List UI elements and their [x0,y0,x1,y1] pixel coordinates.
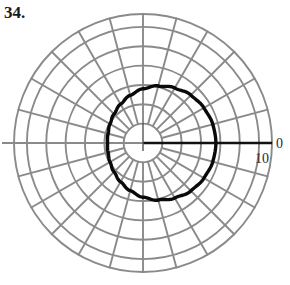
polar-axis-line [2,123,272,151]
radial-tick-label-ten: 10 [255,151,269,166]
axis-label-zero: 0 [276,136,283,151]
polar-graph-figure: 34. 0 10 [0,0,290,285]
polar-plot-svg: 0 10 [0,0,290,285]
problem-number-label: 34. [4,3,25,22]
